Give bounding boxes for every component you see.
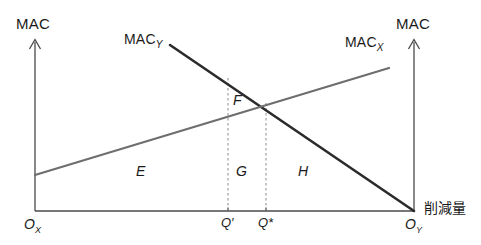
curve-label-mac-x-subscript: X <box>377 42 384 53</box>
tick-label-q-prime: Q′ <box>221 215 234 230</box>
origin-label-y-text: O <box>405 216 416 232</box>
origin-label-y-subscript: Y <box>416 225 422 235</box>
origin-label-y: OY <box>405 216 422 235</box>
left-axis-title: MAC <box>16 15 50 32</box>
right-axis-title: MAC <box>396 15 430 32</box>
curve-label-mac-y-subscript: Y <box>156 39 163 50</box>
horizontal-axis-label: 削減量 <box>424 197 466 217</box>
area-label-g: G <box>236 163 247 179</box>
origin-label-x-text: O <box>24 216 35 232</box>
area-label-e: E <box>136 163 145 179</box>
curve-label-mac-x-text: MAC <box>345 34 377 50</box>
curve-mac-y <box>170 45 414 211</box>
left-vertical-axis <box>30 40 41 212</box>
area-label-f: F <box>233 92 242 108</box>
diagram-canvas <box>0 0 481 245</box>
tick-label-q-star: Q* <box>258 215 273 230</box>
curve-label-mac-y: MACY <box>124 31 163 50</box>
mac-diagram: MAC MAC MACY MACX E F G H OX OY Q′ Q* 削減… <box>0 0 481 245</box>
curve-label-mac-y-text: MAC <box>124 31 156 47</box>
origin-label-x: OX <box>24 216 41 235</box>
curve-label-mac-x: MACX <box>345 34 384 53</box>
area-label-h: H <box>298 163 308 179</box>
origin-label-x-subscript: X <box>35 225 41 235</box>
right-vertical-axis <box>409 40 420 212</box>
